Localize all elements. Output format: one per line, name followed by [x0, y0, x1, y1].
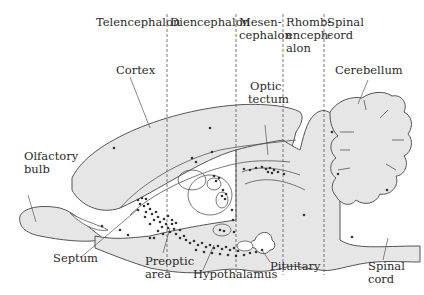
- label-hypothalamus: Hypothalamus: [193, 268, 277, 281]
- label-diencephalon: Diencephalon: [170, 16, 250, 29]
- label-cortex: Cortex: [116, 64, 155, 77]
- pituitary-stalk: [237, 241, 253, 251]
- label-mesencephalon-2: cephalon: [239, 29, 292, 42]
- cerebellum-region: [330, 92, 411, 204]
- label-optic-2: tectum: [248, 93, 289, 106]
- label-spinal-cord-top-2: cord: [327, 29, 353, 42]
- label-pituitary: Pituitary: [270, 260, 321, 273]
- label-telencephalon: Telencephalon: [96, 16, 180, 29]
- label-septum: Septum: [53, 252, 98, 265]
- thalamus-nucleus: [178, 170, 206, 190]
- label-olfactory-2: bulb: [24, 163, 50, 176]
- label-preoptic-2: area: [145, 268, 171, 281]
- thalamus-small-nucleus: [207, 178, 221, 190]
- brain-diagram: Telencephalon Diencephalon Mesen- cephal…: [0, 0, 424, 295]
- label-spinal-cord-bottom-2: cord: [368, 273, 394, 286]
- label-cerebellum: Cerebellum: [335, 64, 403, 77]
- label-rhombencephalon-3: alon: [286, 42, 311, 55]
